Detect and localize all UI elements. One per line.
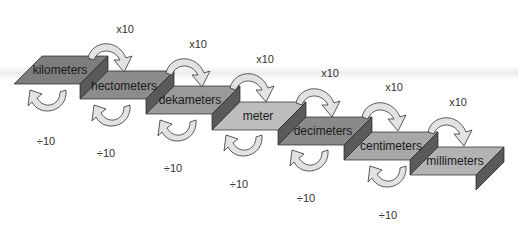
divide-arrow xyxy=(92,105,130,126)
divide-arrow xyxy=(368,166,406,187)
divide-label: ÷10 xyxy=(164,162,182,174)
multiply-label: x10 xyxy=(449,96,467,108)
metric-staircase-diagram: kilometers hectometers dekameters meter … xyxy=(0,0,518,231)
multiply-label: x10 xyxy=(256,53,274,65)
divide-arrow xyxy=(224,135,262,156)
multiply-label: x10 xyxy=(321,67,339,79)
step-label: millimeters xyxy=(426,154,483,168)
step-label: hectometers xyxy=(91,79,157,93)
divide-label: ÷10 xyxy=(230,178,248,190)
multiply-label: x10 xyxy=(189,38,207,50)
divide-label: ÷10 xyxy=(97,147,115,159)
step-label: meter xyxy=(243,109,274,123)
multiply-label: x10 xyxy=(385,81,403,93)
divide-arrow xyxy=(158,120,196,141)
divide-arrow xyxy=(290,150,328,171)
divide-label: ÷10 xyxy=(379,209,397,221)
step-label: decimeters xyxy=(294,124,353,138)
divide-label: ÷10 xyxy=(37,135,55,147)
divide-arrow xyxy=(28,90,66,111)
multiply-label: x10 xyxy=(116,23,134,35)
step-label: kilometers xyxy=(33,63,88,77)
step-label: centimeters xyxy=(360,139,422,153)
divide-label: ÷10 xyxy=(297,192,315,204)
step-label: dekameters xyxy=(159,93,222,107)
